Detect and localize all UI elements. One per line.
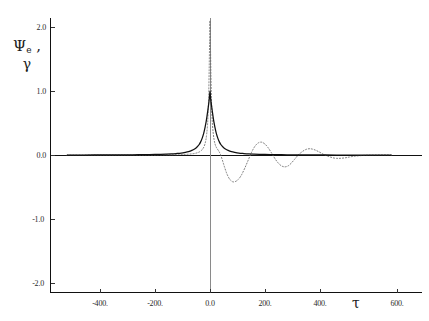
plot-series-layer — [0, 0, 429, 321]
series-dotted-oscillatory — [67, 21, 392, 182]
chart-canvas: Ψe , γ 2.0 1.0 0.0 -1.0 -2.0 -400. -200.… — [0, 0, 429, 321]
series-solid-envelope — [67, 91, 392, 155]
